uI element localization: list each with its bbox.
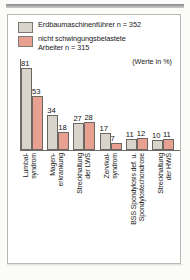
category-label-streckhaltung-lws: Streckhaltung der LWS [76, 153, 91, 271]
bar-b-1: 18 [58, 132, 69, 150]
bar-value-label: 11 [126, 130, 134, 139]
x-axis-category-labels: Lumbal- syndrom Magen- erkrankung Streck… [20, 153, 180, 271]
bar-value-label: 34 [47, 106, 55, 115]
category-line-1: Lumbal- [22, 153, 30, 177]
bar-groups: 81 53 34 18 27 [21, 59, 180, 150]
category-line-2: der LWS [84, 153, 92, 179]
category-line-1: BSS Spondylosis def. u. [130, 153, 138, 225]
bar-group-zervikalsyndrom: 17 7 [100, 59, 122, 150]
bar-a-4: 11 [126, 139, 137, 150]
plot-area: 81 53 34 18 27 [20, 59, 180, 151]
bar-value-label: 7 [111, 134, 115, 143]
bar-group-lumbalsyndrom: 81 53 [21, 59, 43, 150]
legend-item-erdbaumaschinenfuehrer: Erdbaumaschinenführer n = 352 [18, 21, 178, 33]
bar-b-4: 12 [137, 138, 148, 150]
bar-a-3: 17 [100, 133, 111, 150]
category-line-1: Streckhaltung [157, 153, 165, 194]
category-label-bss-spondylosis: BSS Spondylosis def. u. Spondylostechond… [130, 153, 145, 271]
legend-item-nicht-schwingungsbelastete: nicht schwingungsbelastete Arbeiter n = … [18, 35, 178, 52]
chart-legend: Erdbaumaschinenführer n = 352 nicht schw… [18, 21, 178, 54]
category-label-zervikalsyndrom: Zervikal- syndrom [103, 153, 118, 271]
bar-a-0: 81 [21, 68, 32, 150]
category-label-magenerkrankung: Magen- erkrankung [49, 153, 64, 271]
category-line-2: der HWS [165, 153, 173, 180]
bar-a-1: 34 [47, 115, 58, 150]
bar-value-label: 28 [84, 113, 92, 122]
category-label-streckhaltung-hws: Streckhaltung der HWS [157, 153, 172, 271]
bar-b-0: 53 [32, 96, 43, 150]
bar-value-label: 18 [58, 123, 66, 132]
bar-value-label: 53 [32, 87, 40, 96]
bar-b-2: 28 [84, 122, 95, 150]
category-line-2: Spondylostechondrose [138, 153, 146, 221]
chart-frame: Erdbaumaschinenführer n = 352 nicht schw… [7, 14, 181, 264]
legend-label-a: Erdbaumaschinenführer n = 352 [38, 21, 141, 30]
figure-panel: Erdbaumaschinenführer n = 352 nicht schw… [0, 0, 190, 280]
category-line-2: erkrankung [57, 153, 65, 187]
bar-a-2: 27 [73, 123, 84, 150]
bar-group-magenerkrankung: 34 18 [47, 59, 69, 150]
legend-swatch-icon-a [18, 22, 33, 33]
bar-group-streckhaltung-lws: 27 28 [73, 59, 95, 150]
legend-swatch-icon-b [18, 36, 33, 47]
bar-value-label: 17 [100, 124, 108, 133]
page-bottom-shadow [7, 264, 183, 267]
bar-b-5: 11 [163, 139, 174, 150]
bar-value-label: 11 [163, 130, 171, 139]
bar-value-label: 12 [137, 129, 145, 138]
category-line-1: Streckhaltung [76, 153, 84, 194]
scan-edge-strip [6, 4, 184, 8]
category-line-1: Zervikal- [103, 153, 111, 179]
bar-value-label: 81 [21, 59, 29, 68]
bar-a-5: 10 [152, 140, 163, 150]
category-line-2: syndrom [111, 153, 119, 179]
x-axis [20, 150, 180, 151]
bar-b-3: 7 [111, 143, 122, 150]
category-line-2: syndrom [30, 153, 38, 179]
legend-label-b-line2: Arbeiter n = 315 [38, 44, 126, 53]
bar-value-label: 27 [73, 114, 81, 123]
legend-label-b-wrap: nicht schwingungsbelastete Arbeiter n = … [38, 35, 126, 52]
bar-value-label: 10 [152, 131, 160, 140]
bar-group-streckhaltung-hws: 10 11 [152, 59, 174, 150]
category-label-lumbalsyndrom: Lumbal- syndrom [22, 153, 37, 271]
category-line-1: Magen- [49, 153, 57, 176]
bar-group-bss-spondylosis: 11 12 [126, 59, 148, 150]
